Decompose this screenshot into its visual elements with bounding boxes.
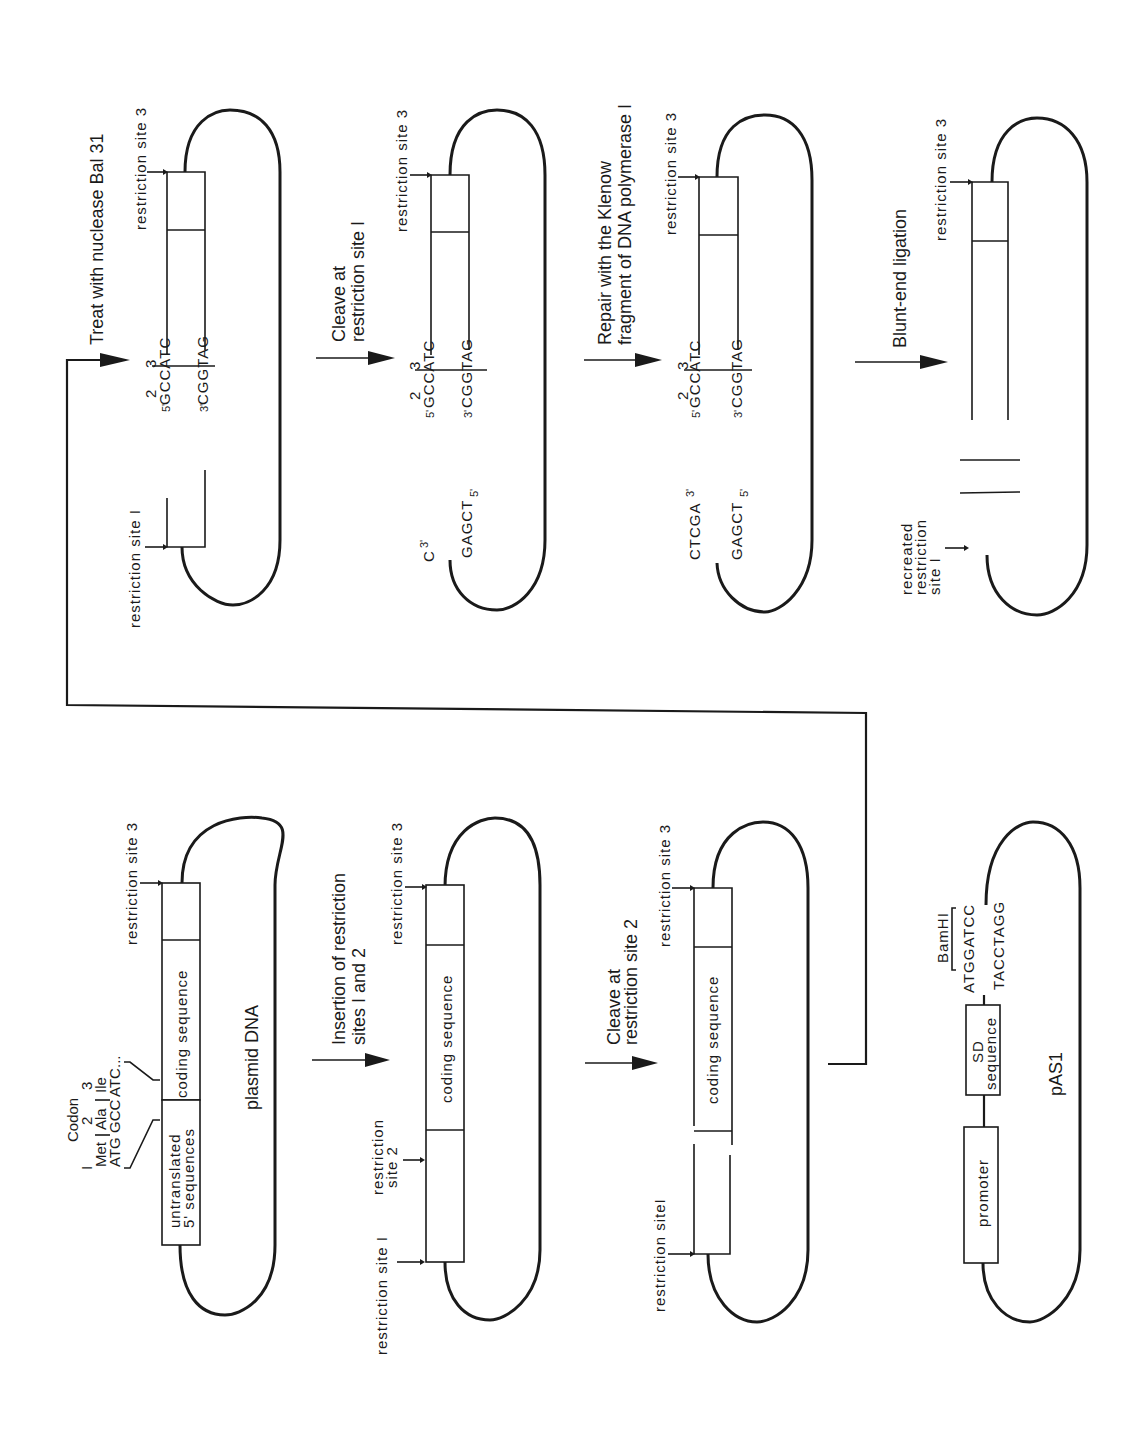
svg-text:restriction site 3: restriction site 3 (393, 109, 410, 232)
svg-text:ATC: ATC (106, 1068, 123, 1097)
svg-text:sequence: sequence (982, 1017, 999, 1090)
svg-text:GCCATC: GCCATC (420, 340, 437, 408)
svg-text:restriction site I: restriction site I (373, 1236, 390, 1355)
svg-text:...: ... (106, 1055, 123, 1068)
svg-text:GAGCT: GAGCT (728, 502, 745, 560)
panel-klenow-repaired: restriction site 3 2 3 5' GCCATC 3' CGGT… (662, 112, 812, 612)
svg-text:restriction site I: restriction site I (126, 509, 143, 628)
step-cleave-site-1: Cleave at restriction site I (316, 221, 395, 365)
svg-text:site 2: site 2 (383, 1146, 400, 1188)
panel-plasmid-dna: restriction site 3 coding sequence untra… (64, 817, 283, 1315)
svg-text:CTCGA: CTCGA (686, 503, 703, 561)
panel-bal31: restriction site 3 restriction site I 2 … (126, 107, 280, 628)
svg-text:5': 5' (424, 410, 436, 418)
svg-text:restriction site I: restriction site I (348, 221, 368, 342)
svg-text:ATGGATCC: ATGGATCC (960, 904, 977, 993)
svg-text:CGGTAG: CGGTAG (728, 338, 745, 408)
svg-text:CGGTAG: CGGTAG (458, 338, 475, 408)
svg-text:sites I and 2: sites I and 2 (349, 948, 369, 1045)
svg-text:restriction site 2: restriction site 2 (621, 919, 641, 1045)
svg-text:C: C (420, 550, 437, 562)
svg-text:BamHI: BamHI (934, 912, 951, 963)
svg-text:Blunt-end ligation: Blunt-end ligation (890, 209, 910, 348)
svg-text:coding sequence: coding sequence (704, 976, 721, 1104)
step-bal31: Treat with nuclease Bal 31 (87, 134, 107, 345)
svg-text:promoter: promoter (974, 1159, 991, 1227)
cloning-diagram: restriction site 3 coding sequence untra… (0, 0, 1142, 1442)
svg-text:Insertion of restriction: Insertion of restriction (329, 873, 349, 1045)
panel-insertion: restriction site 3 coding sequence restr… (369, 818, 540, 1355)
untranslated-label-2: 5' sequences (180, 1128, 197, 1228)
svg-text:coding sequence: coding sequence (438, 975, 455, 1103)
svg-text:restriction siteI: restriction siteI (651, 1198, 668, 1312)
svg-text:CGGTAG: CGGTAG (194, 335, 211, 405)
svg-text:3': 3' (462, 410, 474, 418)
panel-cleave-site-1: restriction site 3 2 3 5' GCCATC 3' CGGT… (393, 109, 545, 610)
svg-text:3': 3' (684, 489, 696, 497)
panel-pas1: SD sequence promoter pAS1 BamHI ATGGATCC… (934, 822, 1080, 1322)
svg-text:GCCATC: GCCATC (686, 340, 703, 408)
svg-text:GCCATC: GCCATC (156, 337, 173, 405)
step-klenow-repair: Repair with the Klenow fragment of DNA p… (584, 104, 662, 367)
svg-text:5': 5' (468, 489, 480, 497)
svg-text:TACCTAGG: TACCTAGG (990, 901, 1007, 990)
svg-text:fragment of DNA polymerase I: fragment of DNA polymerase I (615, 104, 635, 345)
svg-text:pAS1: pAS1 (1046, 1052, 1066, 1096)
sequence-klenow: 2 3 5' GCCATC 3' CGGTAG CTCGA 3' GAGCT 5… (674, 338, 752, 560)
svg-text:5': 5' (738, 489, 750, 497)
svg-text:restriction site 3: restriction site 3 (132, 107, 149, 230)
svg-text:3': 3' (418, 540, 430, 548)
restriction-site-3-label: restriction site 3 (123, 822, 140, 945)
svg-text:restriction site 3: restriction site 3 (656, 824, 673, 947)
svg-text:3': 3' (732, 410, 744, 418)
panel-cleave-site-2: restriction site 3 coding sequence restr… (651, 822, 808, 1322)
svg-text:site I: site I (926, 557, 943, 595)
svg-text:Treat with nuclease Bal 31: Treat with nuclease Bal 31 (87, 134, 107, 345)
svg-text:GAGCT: GAGCT (458, 500, 475, 558)
svg-text:GCC: GCC (106, 1100, 123, 1134)
svg-text:Cleave at: Cleave at (329, 266, 349, 342)
svg-text:restriction site 3: restriction site 3 (388, 822, 405, 945)
step-insertion: Insertion of restriction sites I and 2 (312, 873, 390, 1067)
codon-annotation: Codon I 2 3 Met Ala Ile ATG GCC ATC ... (64, 1055, 160, 1170)
svg-text:restriction site 3: restriction site 3 (932, 118, 949, 241)
sequence-cleave-site-1: 2 3 5' GCCATC 3' CGGTAG C 3' GAGCT 5' (406, 338, 487, 562)
svg-text:Repair with the Klenow: Repair with the Klenow (595, 160, 615, 345)
plasmid-dna-label: plasmid DNA (242, 1005, 262, 1110)
step-cleave-site-2: Cleave at restriction site 2 (585, 919, 658, 1070)
svg-text:5': 5' (690, 410, 702, 418)
sequence-ligated (960, 460, 1020, 493)
coding-sequence-label: coding sequence (173, 970, 190, 1098)
svg-text:restriction site 3: restriction site 3 (662, 112, 679, 235)
svg-text:ATG: ATG (106, 1137, 123, 1167)
sequence-bal31: 2 3 5' GCCATC 3' CGGTAG (142, 335, 215, 412)
